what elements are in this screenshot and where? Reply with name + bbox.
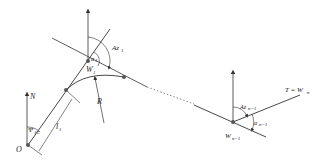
curve-arc <box>66 75 124 90</box>
north-label: N <box>29 92 36 101</box>
well-trajectory-diagram: N Ψ 1C l 1 R α 1 Az 1 W 1 T = W n Az n−1… <box>0 0 323 161</box>
node-w1 <box>86 59 90 63</box>
alphan1-label: α <box>254 120 258 126</box>
target-sub: n <box>307 90 310 95</box>
l1-sub: 1 <box>59 127 62 132</box>
wn1-sub: n−1 <box>232 136 240 141</box>
az1-sub: 1 <box>121 48 124 53</box>
l1-ext-top <box>66 90 80 103</box>
node-arc-end <box>122 75 126 79</box>
target-label: T = W <box>285 86 304 94</box>
origin-label: O <box>16 145 22 154</box>
az1-label: Az <box>111 44 119 52</box>
azn1-label: Az <box>239 104 247 110</box>
alphan1-sub: n−1 <box>259 122 267 127</box>
node-wn1 <box>231 120 235 124</box>
omitted-segments <box>147 87 194 104</box>
azn1-sub: n−1 <box>248 106 256 111</box>
w1-sub: 1 <box>93 70 96 75</box>
node-arc-start <box>64 88 68 92</box>
radius-label: R <box>96 97 102 106</box>
alpha1-sub: 1 <box>95 58 98 63</box>
wn1-label: W <box>225 132 232 140</box>
node-origin <box>26 143 30 147</box>
